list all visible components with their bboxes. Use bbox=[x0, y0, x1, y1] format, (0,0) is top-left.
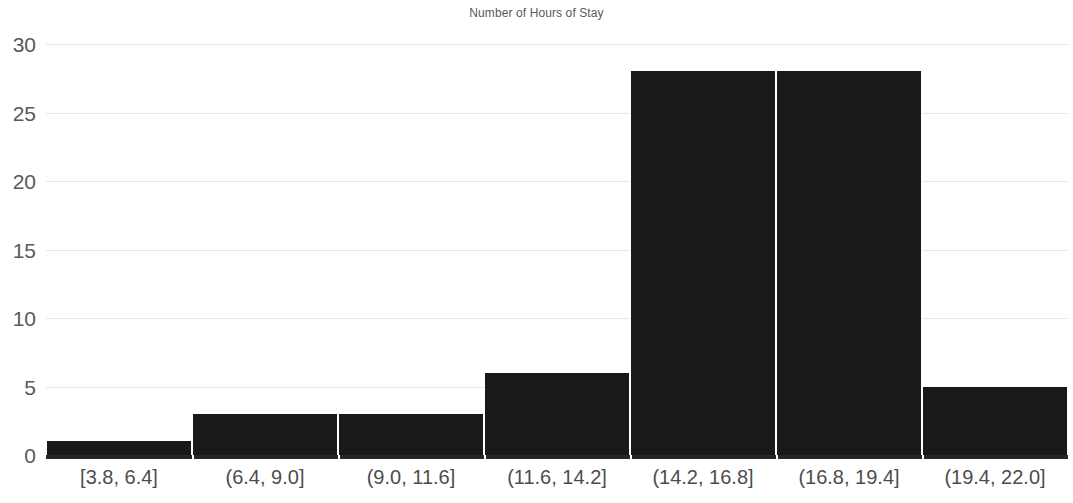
plot-area bbox=[46, 44, 1068, 455]
bar bbox=[46, 441, 192, 455]
x-tick-separator bbox=[776, 455, 778, 459]
bar bbox=[630, 71, 776, 455]
x-tick-label: (16.8, 19.4] bbox=[776, 467, 922, 487]
y-tick-label: 0 bbox=[24, 445, 36, 466]
y-tick-label: 20 bbox=[13, 171, 36, 192]
y-tick-label: 15 bbox=[13, 239, 36, 260]
x-tick-label: (6.4, 9.0] bbox=[192, 467, 338, 487]
x-tick-separator bbox=[484, 455, 486, 459]
x-tick-label: (9.0, 11.6] bbox=[338, 467, 484, 487]
x-tick-label: (11.6, 14.2] bbox=[484, 467, 630, 487]
x-tick-label: (14.2, 16.8] bbox=[630, 467, 776, 487]
x-tick-separator bbox=[338, 455, 340, 459]
histogram-chart: Number of Hours of Stay 051015202530 [3.… bbox=[0, 0, 1073, 503]
x-axis-line bbox=[46, 455, 1068, 459]
bars bbox=[46, 44, 1068, 455]
bar bbox=[338, 414, 484, 455]
y-tick-label: 5 bbox=[24, 376, 36, 397]
bar bbox=[192, 414, 338, 455]
x-tick-label: [3.8, 6.4] bbox=[46, 467, 192, 487]
chart-title: Number of Hours of Stay bbox=[0, 6, 1073, 20]
x-tick-separator bbox=[630, 455, 632, 459]
y-tick-label: 25 bbox=[13, 102, 36, 123]
x-axis: [3.8, 6.4](6.4, 9.0](9.0, 11.6](11.6, 14… bbox=[46, 463, 1068, 503]
x-tick-label: (19.4, 22.0] bbox=[922, 467, 1068, 487]
x-tick-separator bbox=[192, 455, 194, 459]
x-tick-separator bbox=[922, 455, 924, 459]
y-tick-label: 10 bbox=[13, 308, 36, 329]
bar bbox=[776, 71, 922, 455]
y-tick-label: 30 bbox=[13, 34, 36, 55]
bar bbox=[484, 373, 630, 455]
bar bbox=[922, 387, 1068, 456]
y-axis: 051015202530 bbox=[0, 0, 46, 503]
